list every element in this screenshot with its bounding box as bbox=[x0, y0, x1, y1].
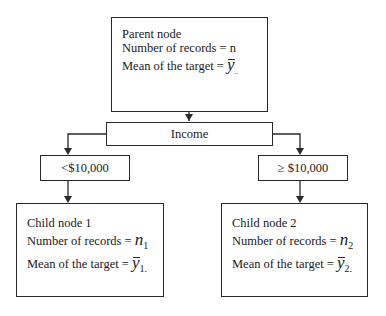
branch-condition-right: ≥ $10,000 bbox=[258, 155, 348, 181]
child-node-1-records: Number of records = n1 bbox=[27, 233, 148, 253]
child-node-1-title: Child node 1 bbox=[27, 216, 92, 230]
child-node-1: Child node 1 Number of records = n1 Mean… bbox=[16, 203, 164, 297]
split-variable-label: Income bbox=[171, 127, 208, 142]
parent-node: Parent node Number of records = n Mean o… bbox=[111, 17, 268, 112]
child-1-mean-label: Mean of the target = bbox=[27, 257, 132, 271]
parent-node-mean-label: Mean of the target = bbox=[122, 59, 227, 73]
branch-condition-right-label: ≥ $10,000 bbox=[278, 161, 329, 176]
parent-mean-symbol: y bbox=[227, 58, 235, 72]
child-node-2-mean: Mean of the target = y2. bbox=[232, 256, 352, 276]
split-variable-income: Income bbox=[106, 122, 273, 146]
parent-node-mean: Mean of the target = y.. bbox=[122, 58, 238, 79]
child-1-records-label: Number of records = bbox=[27, 234, 135, 248]
parent-node-title: Parent node bbox=[122, 27, 181, 41]
child-2-records-symbol: n bbox=[340, 230, 349, 249]
child-node-1-mean: Mean of the target = y1. bbox=[27, 256, 147, 276]
child-2-records-label: Number of records = bbox=[232, 234, 340, 248]
child-2-mean-symbol: y bbox=[337, 256, 345, 270]
child-node-2-records: Number of records = n2 bbox=[232, 233, 353, 253]
child-1-records-subscript: 1 bbox=[143, 240, 148, 251]
child-1-mean-subscript: 1. bbox=[140, 263, 148, 274]
child-2-mean-subscript: 2. bbox=[345, 263, 353, 274]
child-1-mean-symbol: y bbox=[132, 256, 140, 270]
child-2-mean-label: Mean of the target = bbox=[232, 257, 337, 271]
child-1-records-symbol: n bbox=[135, 230, 144, 249]
child-node-2: Child node 2 Number of records = n2 Mean… bbox=[221, 203, 368, 297]
child-2-records-subscript: 2 bbox=[348, 240, 353, 251]
branch-condition-left-label: <$10,000 bbox=[61, 161, 109, 176]
child-node-2-title: Child node 2 bbox=[232, 216, 297, 230]
parent-mean-subscript: .. bbox=[235, 68, 239, 76]
branch-condition-left: <$10,000 bbox=[40, 155, 130, 181]
parent-node-records: Number of records = n bbox=[122, 41, 236, 55]
